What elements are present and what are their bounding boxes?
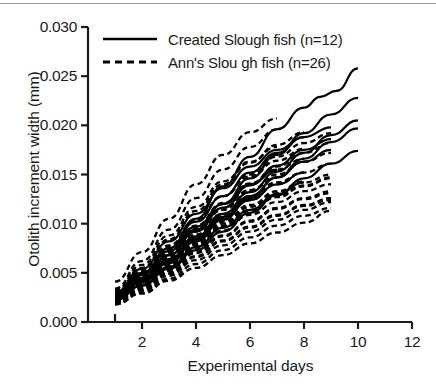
y-tick-label-1: 0.005 bbox=[19, 264, 77, 282]
x-tick-label-2: 6 bbox=[235, 333, 265, 351]
y-tick-label-5: 0.025 bbox=[19, 67, 77, 85]
y-tick-label-3: 0.015 bbox=[19, 166, 77, 184]
y-tick-label-6: 0.030 bbox=[19, 18, 77, 36]
x-tick-label-5: 12 bbox=[397, 333, 427, 351]
x-tick-label-1: 4 bbox=[181, 333, 211, 351]
x-tick-label-0: 2 bbox=[127, 333, 157, 351]
figure-container: Otolith increment width (mm) Experimenta… bbox=[0, 0, 436, 388]
y-tick-label-2: 0.010 bbox=[19, 215, 77, 233]
series-line-14 bbox=[115, 132, 304, 292]
y-tick-label-4: 0.020 bbox=[19, 116, 77, 134]
legend-label-anns-slough: Ann's Slou gh fish (n=26) bbox=[168, 54, 331, 71]
x-tick-label-3: 8 bbox=[289, 333, 319, 351]
y-tick-label-0: 0.000 bbox=[19, 313, 77, 331]
legend-label-created-slough: Created Slough fish (n=12) bbox=[168, 31, 343, 48]
x-axis-label: Experimental days bbox=[88, 357, 413, 375]
x-tick-label-4: 10 bbox=[343, 333, 373, 351]
series-group bbox=[115, 68, 358, 304]
